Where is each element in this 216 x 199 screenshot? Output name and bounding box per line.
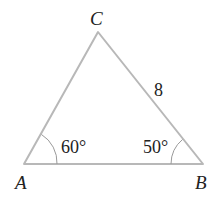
angle-arc-a: [42, 135, 58, 165]
vertex-label-c: C: [90, 8, 103, 29]
angle-arc-b: [171, 140, 183, 165]
triangle-abc: [24, 32, 203, 164]
triangle-diagram: C A B 8 60° 50°: [0, 0, 216, 199]
vertex-label-b: B: [195, 172, 207, 193]
angle-label-b: 50°: [143, 137, 168, 157]
vertex-label-a: A: [13, 172, 27, 193]
side-label-bc: 8: [154, 80, 163, 100]
angle-label-a: 60°: [61, 137, 86, 157]
